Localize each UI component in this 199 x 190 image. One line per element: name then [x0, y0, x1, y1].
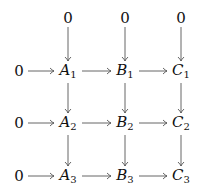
node-letter: A [59, 61, 70, 79]
arrow-z_top_a-to-a1 [65, 27, 71, 61]
arrow-c1-to-c2 [178, 83, 184, 113]
node-subscript: 2 [184, 121, 190, 132]
node-letter: B [116, 61, 127, 79]
node-b1: B1 [116, 63, 133, 80]
node-z-row2: 0 [14, 116, 24, 131]
node-subscript: 1 [70, 69, 76, 80]
arrow-b1-to-b2 [122, 83, 128, 113]
arrow-z_top_c-to-c1 [178, 27, 184, 61]
arrow-a3-to-b3 [82, 173, 111, 179]
node-letter: B [116, 166, 127, 184]
arrow-c2-to-c3 [178, 135, 184, 166]
node-b2: B2 [116, 115, 133, 132]
arrow-layer [0, 0, 199, 190]
node-c1: C1 [172, 63, 190, 80]
arrow-a1-to-a2 [65, 83, 71, 113]
node-a1: A1 [59, 63, 76, 80]
node-z-top-b: 0 [120, 11, 130, 26]
arrow-a1-to-b1 [82, 68, 111, 74]
arrow-z_row1-to-a1 [28, 68, 54, 74]
node-subscript: 1 [127, 69, 133, 80]
node-a2: A2 [59, 115, 76, 132]
node-a3: A3 [59, 168, 76, 185]
node-c3: C3 [172, 168, 190, 185]
node-z-top-a: 0 [63, 11, 73, 26]
arrow-b1-to-c1 [139, 68, 167, 74]
node-subscript: 2 [127, 121, 133, 132]
node-letter: C [172, 61, 183, 79]
node-z-top-c: 0 [176, 11, 186, 26]
node-letter: C [172, 166, 183, 184]
node-subscript: 2 [70, 121, 76, 132]
arrow-a2-to-b2 [82, 120, 111, 126]
node-letter: B [116, 113, 127, 131]
node-subscript: 3 [127, 174, 133, 185]
node-z-row1: 0 [14, 64, 24, 79]
node-letter: C [172, 113, 183, 131]
arrow-b2-to-c2 [139, 120, 167, 126]
node-z-row3: 0 [14, 169, 24, 184]
node-subscript: 3 [70, 174, 76, 185]
node-b3: B3 [116, 168, 133, 185]
node-subscript: 1 [184, 69, 190, 80]
arrow-z_row3-to-a3 [28, 173, 54, 179]
node-letter: A [59, 166, 70, 184]
arrow-b3-to-c3 [139, 173, 167, 179]
arrow-z_row2-to-a2 [28, 120, 54, 126]
arrow-z_top_b-to-b1 [122, 27, 128, 61]
arrow-b2-to-b3 [122, 135, 128, 166]
node-letter: A [59, 113, 70, 131]
node-subscript: 3 [184, 174, 190, 185]
arrow-a2-to-a3 [65, 135, 71, 166]
node-c2: C2 [172, 115, 190, 132]
